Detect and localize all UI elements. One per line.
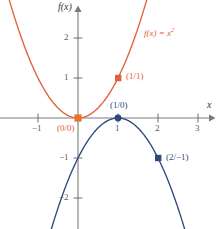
y-tick-label-1: 1 bbox=[64, 73, 69, 82]
x-tick-label-3: 3 bbox=[195, 124, 200, 133]
point-marker-2-minus-1[interactable] bbox=[155, 155, 161, 161]
curve-label-text: f(x) = x bbox=[144, 28, 171, 38]
point-label-2-minus-1: (2/−1) bbox=[166, 153, 189, 162]
point-label-1-0: (1/0) bbox=[110, 101, 128, 110]
curve-negative-x-minus-one-squared bbox=[50, 118, 186, 229]
point-marker-1-0[interactable] bbox=[115, 115, 122, 122]
point-label-1-1: (1/1) bbox=[126, 72, 144, 81]
x-axis-arrowhead bbox=[209, 114, 216, 121]
point-marker-1-1[interactable] bbox=[115, 75, 121, 81]
y-tick-label--1: −1 bbox=[59, 153, 69, 162]
x-tick-label-1: 1 bbox=[115, 124, 120, 133]
point-label-0-0: (0/0) bbox=[57, 124, 75, 133]
y-axis-arrowhead bbox=[74, 6, 81, 13]
point-marker-0-0[interactable] bbox=[74, 114, 81, 121]
curve-label-exponent: 2 bbox=[171, 26, 174, 33]
plot-canvas bbox=[0, 0, 219, 229]
x-axis-label: x bbox=[207, 100, 211, 110]
x-tick-label-2: 2 bbox=[155, 124, 160, 133]
y-tick-label-2: 2 bbox=[64, 33, 69, 42]
curve-label-f-x-squared: f(x) = x2 bbox=[144, 27, 174, 38]
y-tick-label--2: −2 bbox=[59, 193, 69, 202]
parabola-figure: f(x) x −1 1 2 3 2 1 −1 −2 f(x) = x2 (0/0… bbox=[0, 0, 219, 229]
x-tick-label--1: −1 bbox=[32, 124, 42, 133]
y-axis-label: f(x) bbox=[58, 2, 72, 12]
